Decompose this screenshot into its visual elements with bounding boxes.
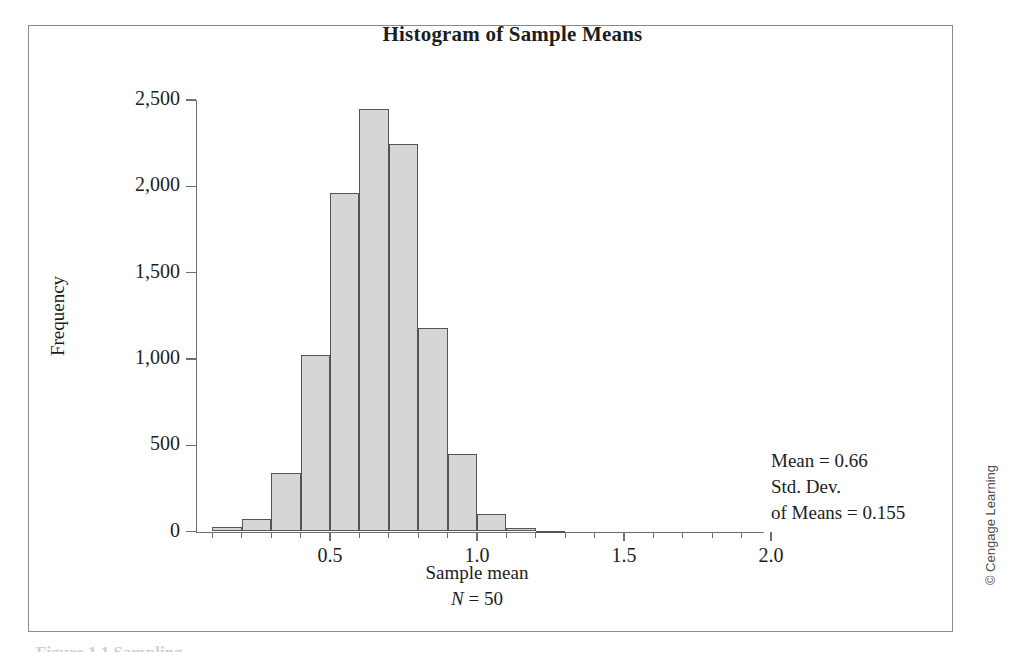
sample-size-symbol: N [451,588,464,609]
x-axis-minor-tick [565,532,566,538]
x-axis-subtitle: N = 50 [183,588,771,610]
histogram-bar [506,528,535,531]
y-axis-tick [186,445,196,446]
histogram-bar [389,144,418,531]
histogram-bar [448,454,477,532]
stats-annotation: Mean = 0.66 Std. Dev. of Means = 0.155 [771,448,905,526]
x-axis-minor-tick [359,532,360,538]
caption-fragment: Figure 1.1 Sampling [36,643,183,652]
x-axis-minor-tick [535,532,536,538]
histogram-bar [301,355,330,531]
y-axis-tick [186,358,196,359]
x-axis-minor-tick [388,532,389,538]
annotation-stddev-value: of Means = 0.155 [771,500,905,526]
y-axis-tick [186,272,196,273]
histogram-bar [477,514,506,531]
x-axis-minor-tick [447,532,448,538]
y-axis-title: Frequency [47,276,69,356]
copyright-note: © Cengage Learning [983,465,998,585]
annotation-stddev-label: Std. Dev. [771,474,905,500]
y-axis-tick-label: 0 [100,519,180,542]
x-axis-tick [770,532,771,541]
x-axis-tick [329,532,330,541]
chart-title: Histogram of Sample Means [0,22,1025,47]
y-axis-tick [186,531,196,532]
histogram-bar [359,109,388,532]
x-axis-minor-tick [300,532,301,538]
histogram-bar [242,519,271,532]
y-axis-tick-label: 2,500 [100,87,180,110]
x-axis-minor-tick [594,532,595,538]
y-axis-tick-label: 1,000 [100,346,180,369]
x-axis-title: Sample mean [183,562,771,584]
y-axis-tick-label: 500 [100,432,180,455]
y-axis-tick [186,99,196,100]
x-axis-tick [623,532,624,541]
y-axis-tick-label: 1,500 [100,260,180,283]
histogram-bar [330,193,359,531]
annotation-mean: Mean = 0.66 [771,448,905,474]
y-axis-tick-label: 2,000 [100,173,180,196]
x-axis-minor-tick [271,532,272,538]
x-axis-minor-tick [712,532,713,538]
x-axis-minor-tick [741,532,742,538]
x-axis-minor-tick [212,532,213,538]
x-axis-minor-tick [418,532,419,538]
histogram-bar [212,527,241,531]
histogram-bar [418,328,447,532]
x-axis-minor-tick [241,532,242,538]
histogram-bar [271,473,300,532]
x-axis-tick [476,532,477,541]
x-axis-minor-tick [682,532,683,538]
y-axis-tick [186,186,196,187]
sample-size-value: = 50 [464,588,503,609]
x-axis-minor-tick [653,532,654,538]
x-axis-minor-tick [506,532,507,538]
histogram-bar [536,531,565,533]
